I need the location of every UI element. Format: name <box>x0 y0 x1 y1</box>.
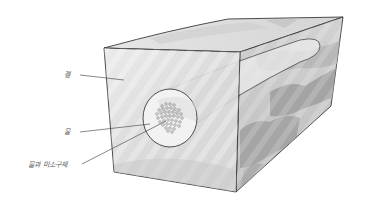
gel-block-drawing <box>0 0 367 211</box>
gel-channel-illustration: 겔 물 물과 미소구체 <box>0 0 367 211</box>
label-water-and-microspheres: 물과 미소구체 <box>28 161 68 169</box>
label-water: 물 <box>64 128 70 136</box>
label-gel: 겔 <box>64 71 70 79</box>
